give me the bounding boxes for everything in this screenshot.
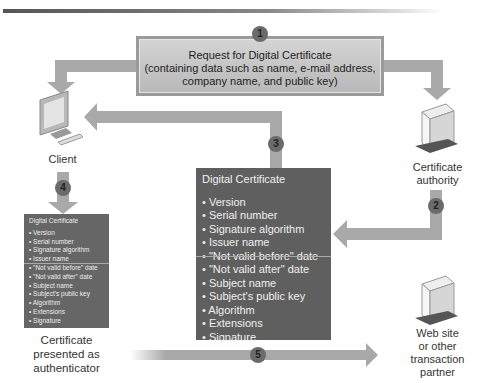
certificate-field: Subject name xyxy=(202,277,325,291)
partner-label-line: transaction xyxy=(405,353,470,366)
ca-label-line: authority xyxy=(400,174,475,187)
certificate-field: Version xyxy=(202,196,325,210)
certificate-title: Digital Certificate xyxy=(29,217,104,226)
digital-certificate-main: Digital Certificate Version Serial numbe… xyxy=(196,168,331,340)
certificate-field: Algorithm xyxy=(29,299,104,308)
request-box: Request for Digital Certificate (contain… xyxy=(136,36,384,96)
certificate-fields: Version Serial number Signature algorith… xyxy=(202,196,325,345)
partner-label-line: Web site xyxy=(405,327,470,340)
digital-certificate-presented: Digital Certificate Version Serial numbe… xyxy=(24,214,109,328)
certificate-field: Issuer name xyxy=(202,236,325,250)
step-4-badge: 4 xyxy=(55,180,71,196)
client-computer-icon xyxy=(40,91,83,145)
request-title: Request for Digital Certificate xyxy=(139,49,381,62)
ca-label: Certificate authority xyxy=(400,161,475,187)
certificate-field: "Not valid after" date xyxy=(202,263,325,277)
certificate-field: Signature xyxy=(29,317,104,326)
certificate-fold-line xyxy=(24,263,109,264)
step-2-badge: 2 xyxy=(428,198,444,214)
certificate-field: Serial number xyxy=(202,209,325,223)
certificate-field: Signature algorithm xyxy=(29,246,104,255)
certificate-field: Extensions xyxy=(202,317,325,331)
request-detail: company name, and public key) xyxy=(139,75,381,88)
authenticator-label-line: authenticator xyxy=(14,361,119,375)
certificate-field: Subject's public key xyxy=(29,290,104,299)
certificate-field: Algorithm xyxy=(202,304,325,318)
request-detail: (containing data such as name, e-mail ad… xyxy=(139,62,381,75)
certificate-field: "Not valid after" date xyxy=(29,273,104,282)
partner-label: Web site or other transaction partner xyxy=(405,327,470,379)
certificate-field: Extensions xyxy=(29,308,104,317)
certificate-fold-line xyxy=(196,256,331,257)
certificate-field: Signature algorithm xyxy=(202,223,325,237)
partner-label-line: or other xyxy=(405,340,470,353)
partner-label-line: partner xyxy=(405,366,470,379)
certificate-field: Subject's public key xyxy=(202,290,325,304)
ca-server-icon xyxy=(415,104,458,153)
certificate-field: Signature xyxy=(202,331,325,345)
certificate-field: Version xyxy=(29,229,104,238)
authenticator-label-line: Certificate xyxy=(14,333,119,347)
client-label: Client xyxy=(35,153,90,166)
authenticator-label-line: presented as xyxy=(14,347,119,361)
certificate-field: Serial number xyxy=(29,238,104,247)
step-1-badge: 1 xyxy=(252,26,268,42)
partner-server-icon xyxy=(415,276,458,325)
ca-label-line: Certificate xyxy=(400,161,475,174)
step-5-badge: 5 xyxy=(250,347,266,363)
authenticator-label: Certificate presented as authenticator xyxy=(14,333,119,375)
certificate-field: Subject name xyxy=(29,282,104,291)
certificate-title: Digital Certificate xyxy=(202,173,325,187)
step-3-badge: 3 xyxy=(268,136,284,152)
certificate-field: "Not valid before" date xyxy=(29,264,104,273)
certificate-fields: Version Serial number Signature algorith… xyxy=(29,229,104,326)
